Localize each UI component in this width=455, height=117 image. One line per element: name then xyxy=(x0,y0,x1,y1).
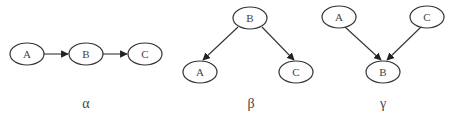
node-beta-c: C xyxy=(279,61,313,83)
node-label: A xyxy=(335,11,343,23)
node-alpha-a: A xyxy=(10,43,44,65)
edge-beta-b-c xyxy=(262,27,294,60)
diagram-gamma: A C B γ xyxy=(322,6,444,111)
node-label: A xyxy=(23,48,31,60)
node-gamma-a: A xyxy=(322,6,356,28)
node-label: A xyxy=(196,66,204,78)
caption-alpha: α xyxy=(82,96,90,111)
node-alpha-c: C xyxy=(128,43,162,65)
node-beta-a: A xyxy=(183,61,217,83)
diagram-alpha: A B C α xyxy=(10,43,162,111)
diagram-beta: B A C β xyxy=(183,7,313,111)
edge-beta-b-a xyxy=(203,27,238,60)
edge-gamma-a-b xyxy=(345,27,381,60)
node-label: C xyxy=(423,11,430,23)
node-label: B xyxy=(82,48,89,60)
caption-gamma: γ xyxy=(379,96,386,111)
edge-gamma-c-b xyxy=(387,27,421,60)
node-label: C xyxy=(292,66,299,78)
node-alpha-b: B xyxy=(69,43,103,65)
node-label: B xyxy=(246,12,253,24)
node-label: B xyxy=(379,66,386,78)
caption-beta: β xyxy=(247,96,254,111)
diagram-canvas: A B C α B A C β xyxy=(0,0,455,117)
node-beta-b: B xyxy=(233,7,267,29)
node-label: C xyxy=(141,48,148,60)
node-gamma-c: C xyxy=(410,6,444,28)
node-gamma-b: B xyxy=(366,61,400,83)
